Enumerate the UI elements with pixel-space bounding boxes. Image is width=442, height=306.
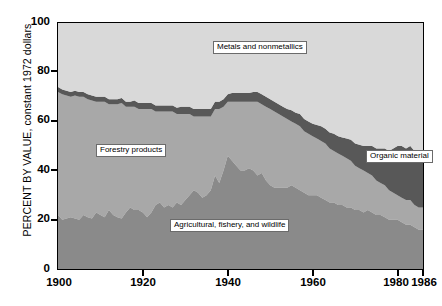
x-tick-1900: 1900 (46, 276, 72, 288)
chart-figure: PERCENT BY VALUE, constant 1972 dollars … (0, 0, 442, 306)
x-tick-1960: 1960 (300, 276, 326, 288)
series-label-agricultural: Agricultural, fishery, and wildlife (170, 219, 289, 232)
y-tick-0: 0 (20, 263, 50, 275)
y-axis-tick-labels: 100 80 60 40 20 0 (18, 0, 50, 306)
y-tick-80: 80 (20, 65, 50, 77)
x-tick-1940: 1940 (215, 276, 241, 288)
x-tick-1980: 1980 (383, 276, 409, 288)
y-tick-60: 60 (20, 114, 50, 126)
x-tick-1920: 1920 (130, 276, 156, 288)
x-tick-1986: 1986 (411, 276, 437, 288)
series-label-metals: Metals and nonmetallics (213, 41, 307, 54)
y-tick-20: 20 (20, 213, 50, 225)
x-axis-tick-labels: 1900 1920 1940 1960 1980 1986 (0, 276, 442, 296)
y-tick-40: 40 (20, 164, 50, 176)
y-tick-100: 100 (20, 16, 50, 28)
series-label-organic: Organic material (366, 150, 433, 163)
series-label-forestry: Forestry products (96, 144, 166, 157)
